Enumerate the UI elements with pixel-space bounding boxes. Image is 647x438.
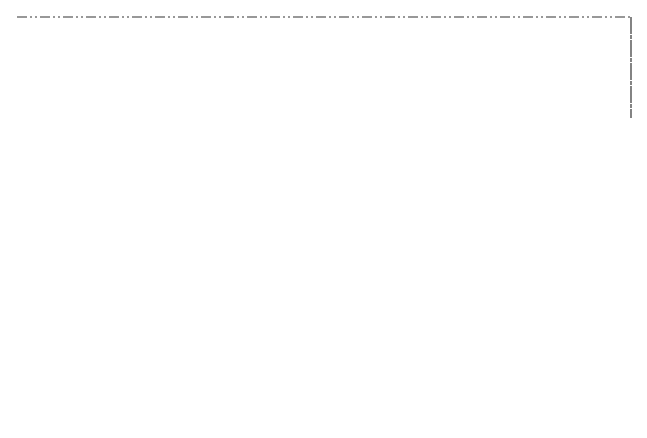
global-ecosystem-boundary: [17, 17, 631, 118]
diagram-canvas: [0, 0, 647, 438]
